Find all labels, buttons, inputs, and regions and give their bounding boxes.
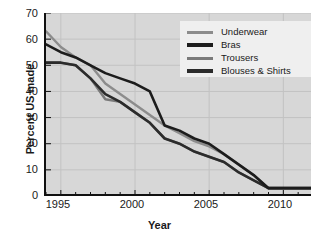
legend-label: Underwear bbox=[221, 27, 267, 37]
series-line-trousers bbox=[46, 63, 311, 188]
legend-item-underwear: Underwear bbox=[187, 26, 311, 38]
y-tick-label: 30 bbox=[12, 112, 38, 123]
legend-item-bras: Bras bbox=[187, 39, 311, 51]
y-tick-label: 20 bbox=[12, 138, 38, 149]
line-chart: Percent US made 70 60 50 40 30 20 10 0 1… bbox=[0, 0, 319, 237]
y-axis-tick-labels: 70 60 50 40 30 20 10 0 bbox=[8, 0, 38, 237]
legend-swatch-icon bbox=[187, 31, 213, 34]
legend-label: Bras bbox=[221, 40, 241, 50]
legend-swatch-icon bbox=[187, 57, 213, 60]
x-tick-label: 2010 bbox=[260, 199, 300, 210]
x-tick-label: 1995 bbox=[38, 199, 78, 210]
legend-item-trousers: Trousers bbox=[187, 52, 311, 64]
x-tick-label: 2000 bbox=[112, 199, 152, 210]
chart-legend: Underwear Bras Trousers Blouses & Shirts bbox=[180, 21, 311, 77]
y-tick-label: 40 bbox=[12, 86, 38, 97]
y-tick-label: 60 bbox=[12, 34, 38, 45]
legend-item-blouses-shirts: Blouses & Shirts bbox=[187, 65, 311, 77]
legend-label: Trousers bbox=[221, 53, 258, 63]
series-line-blouses-shirts bbox=[46, 63, 311, 188]
x-axis-title: Year bbox=[0, 219, 319, 231]
y-tick-label: 50 bbox=[12, 60, 38, 71]
legend-swatch-icon bbox=[187, 69, 213, 73]
x-tick-label: 2005 bbox=[186, 199, 226, 210]
legend-label: Blouses & Shirts bbox=[221, 66, 291, 76]
y-tick-label: 0 bbox=[12, 190, 38, 201]
y-tick-label: 70 bbox=[12, 8, 38, 19]
legend-swatch-icon bbox=[187, 43, 213, 47]
y-tick-label: 10 bbox=[12, 164, 38, 175]
